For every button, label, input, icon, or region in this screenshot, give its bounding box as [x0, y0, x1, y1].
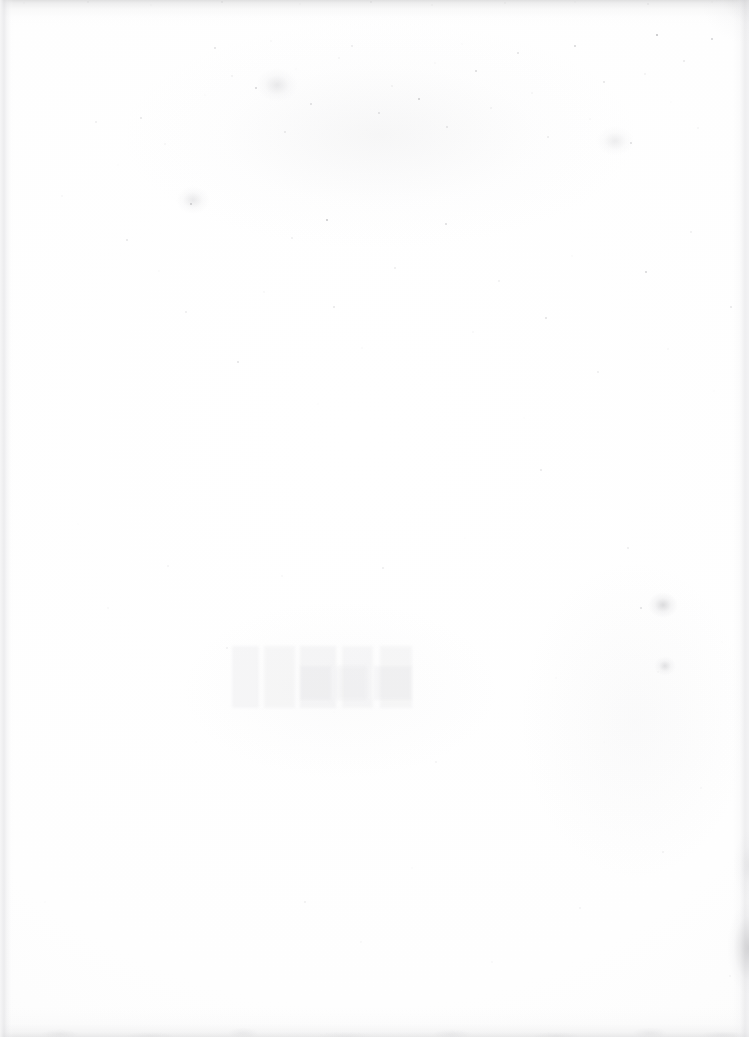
- paper-surface: [0, 0, 749, 1037]
- scanned-page: [0, 0, 749, 1037]
